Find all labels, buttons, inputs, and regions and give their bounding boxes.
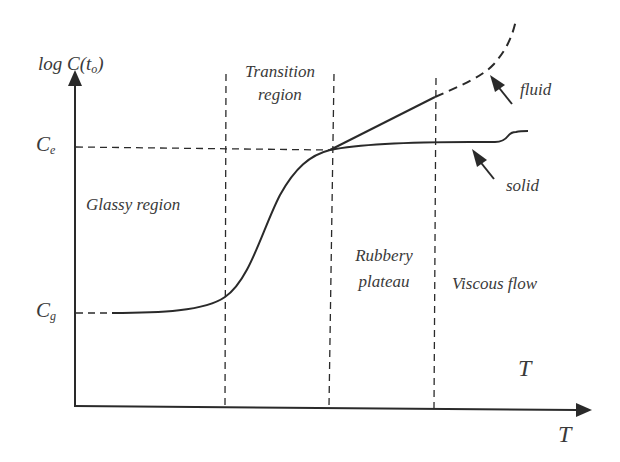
rubbery-plateau-label-line1: Rubbery bbox=[338, 246, 430, 266]
boundary-rubbery-viscous bbox=[434, 78, 436, 408]
y-axis-label: log C(to) bbox=[38, 54, 104, 74]
x-axis-arrow-icon bbox=[576, 403, 592, 417]
y-axis bbox=[68, 70, 82, 406]
solid-pointer-arrow-icon bbox=[472, 149, 494, 179]
inner-temperature-label: T bbox=[518, 358, 531, 378]
rubbery-plateau-label-line2: plateau bbox=[338, 272, 430, 292]
boundary-transition-rubbery bbox=[329, 74, 334, 406]
viscous-flow-label: Viscous flow bbox=[452, 274, 537, 294]
cg-label: Cg bbox=[36, 300, 56, 320]
glassy-region-label: Glassy region bbox=[86, 195, 180, 215]
x-axis bbox=[74, 403, 592, 417]
fluid-label: fluid bbox=[520, 80, 551, 100]
transition-region-label-line2: region bbox=[230, 85, 330, 105]
modulus-curve bbox=[112, 150, 330, 313]
x-axis-label: T bbox=[558, 424, 571, 444]
ce-reference-line bbox=[76, 147, 330, 150]
solid-branch bbox=[330, 131, 528, 150]
transition-region-label-line1: Transition bbox=[230, 62, 330, 82]
fluid-pointer-arrow-icon bbox=[490, 75, 512, 104]
ce-label: Ce bbox=[36, 134, 55, 154]
boundary-glassy-transition bbox=[225, 74, 226, 406]
solid-label: solid bbox=[506, 176, 539, 196]
